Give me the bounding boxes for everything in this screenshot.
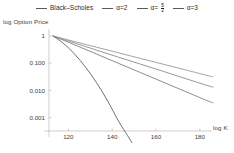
y-tick-label: 0.100 — [30, 59, 46, 66]
x-tick-label: 120 — [63, 133, 74, 140]
x-tick-label: 160 — [151, 133, 162, 140]
axis-group — [44, 29, 212, 137]
x-tick-group: 120140160180 — [63, 129, 205, 141]
curve-alpha-5-2 — [53, 36, 213, 87]
plot-area: 120140160180 10.1000.0100.001 — [0, 0, 234, 153]
curve-alpha-2 — [53, 36, 213, 103]
x-tick-label: 140 — [107, 133, 118, 140]
x-tick-label: 180 — [195, 133, 206, 140]
y-tick-label: 0.010 — [30, 87, 46, 94]
curve-group — [53, 36, 213, 143]
chart-figure: Black–Scholes α=2 α= 5 2 α=3 log Option … — [0, 0, 234, 153]
y-tick-label: 1 — [42, 32, 46, 39]
y-tick-label: 0.001 — [30, 114, 46, 121]
y-tick-group: 10.1000.0100.001 — [30, 32, 52, 121]
